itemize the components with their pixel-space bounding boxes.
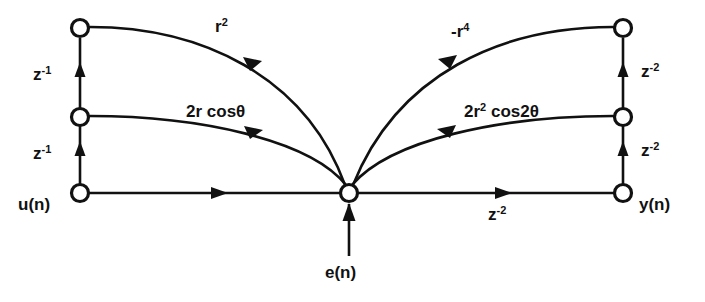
right-lower-delay-arrowhead [618, 141, 629, 156]
label-delay-right-upper: z-2 [641, 61, 659, 81]
signal-flow-graph-diagram: z-1 z-1 z-2 z-2 z-2 r2 2r cosθ -r4 2r2 c… [0, 0, 705, 302]
left-delay-branch-lower [75, 126, 86, 186]
curve-r2-arrowhead [243, 57, 262, 71]
output-rail-arrowhead [495, 187, 512, 199]
label-delay-left-upper: z-1 [33, 64, 51, 84]
label-node-error-en: e(n) [325, 263, 356, 282]
label-gain-r2: r2 [215, 16, 228, 36]
label-node-input-un: u(n) [18, 195, 50, 214]
label-gain-negr4: -r4 [451, 21, 470, 41]
left-delay-branch-upper [75, 38, 86, 110]
flow-graph-canvas: z-1 z-1 z-2 z-2 z-2 r2 2r cosθ -r4 2r2 c… [0, 0, 705, 302]
bottom-input-branch [89, 187, 341, 199]
label-delay-left-lower: z-1 [33, 143, 51, 163]
right-upper-delay-arrowhead [618, 62, 629, 77]
node-right-mid[interactable] [615, 109, 632, 126]
curve-branch-2rcos [90, 116, 346, 185]
label-delay-bottom: z-2 [488, 204, 506, 224]
node-right-top[interactable] [615, 20, 632, 37]
left-upper-delay-arrowhead [75, 62, 86, 77]
node-left-mid[interactable] [72, 109, 89, 126]
label-node-output-yn: y(n) [639, 195, 670, 214]
node-center-summing[interactable] [341, 185, 358, 202]
input-rail-arrowhead [211, 187, 228, 199]
label-gain-2rcos: 2r cosθ [186, 102, 245, 121]
error-input-branch [343, 203, 356, 256]
curve-2rcos-path [90, 116, 346, 185]
curve-2r2cos2-path [352, 116, 613, 185]
node-left-top[interactable] [72, 20, 89, 37]
bottom-output-branch [358, 187, 614, 199]
label-gain-2r2cos2: 2r2 cos2θ [464, 101, 539, 121]
right-delay-branch-lower [618, 126, 629, 186]
node-right-bottom-output[interactable] [615, 185, 632, 202]
left-lower-delay-arrowhead [75, 141, 86, 156]
label-delay-right-lower: z-2 [641, 140, 659, 160]
right-delay-branch-upper [618, 38, 629, 110]
curve-branch-2r2cos2 [352, 116, 613, 185]
error-input-arrowhead [343, 203, 356, 221]
node-left-bottom-input[interactable] [72, 185, 89, 202]
